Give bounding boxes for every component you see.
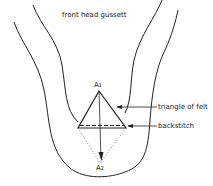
diagram-canvas: front head gussett A1 A2 triangle of fel… <box>0 0 213 186</box>
felt-triangle <box>78 91 126 128</box>
arrow-head-left <box>127 124 133 128</box>
outer-outline <box>14 10 178 177</box>
label-front-head-gussett: front head gussett <box>62 11 127 19</box>
label-a2: A2 <box>96 164 104 172</box>
gusset-drawing <box>0 0 213 186</box>
label-a1: A1 <box>94 81 102 89</box>
fold-arrow <box>99 91 101 158</box>
arrow-head-left <box>116 105 122 109</box>
label-backstitch: backstitch <box>158 122 194 130</box>
label-triangle-of-felt: triangle of felt <box>158 103 208 111</box>
